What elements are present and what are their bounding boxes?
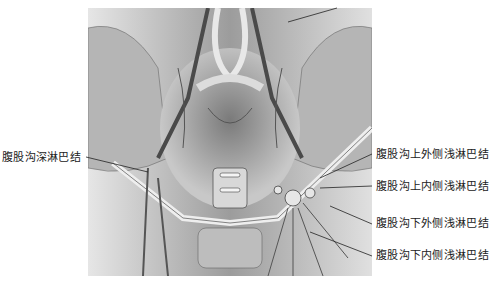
anatomy-illustration <box>88 8 372 276</box>
label-superomedial-superficial-nodes: 腹股沟上内侧浅淋巴结 <box>376 180 489 193</box>
label-deep-inguinal-nodes: 腹股沟深淋巴结 <box>2 151 81 164</box>
label-inferomedial-superficial-nodes: 腹股沟下内侧浅淋巴结 <box>376 249 489 262</box>
label-inferolateral-superficial-nodes: 腹股沟下外侧浅淋巴结 <box>376 217 489 230</box>
pelvis-drawing <box>88 8 372 276</box>
label-superolateral-superficial-nodes: 腹股沟上外侧浅淋巴结 <box>376 148 489 161</box>
